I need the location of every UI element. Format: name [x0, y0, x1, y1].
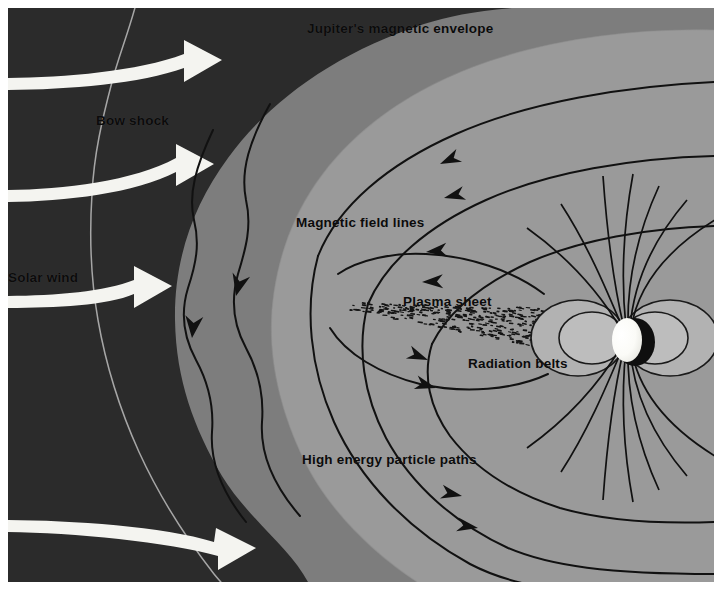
label-plasma-sheet: Plasma sheet: [403, 294, 492, 309]
plasma-sheet-particle: [464, 314, 467, 316]
plasma-sheet-particle: [462, 319, 465, 321]
plasma-sheet-particle: [349, 309, 352, 311]
plasma-sheet-particle: [438, 318, 441, 320]
plasma-sheet-particle: [459, 331, 462, 333]
label-jupiters-magnetic-envelope: Jupiter's magnetic envelope: [307, 21, 493, 36]
diagram-svg: [8, 8, 714, 582]
label-high-energy-particle-paths: High energy particle paths: [302, 452, 477, 467]
plasma-sheet-particle: [377, 311, 381, 313]
plasma-sheet-particle: [367, 311, 372, 313]
plasma-sheet-particle: [379, 306, 381, 308]
label-bow-shock: Bow shock: [96, 113, 169, 128]
label-magnetic-field-lines: Magnetic field lines: [296, 215, 425, 230]
plasma-sheet-particle: [420, 310, 423, 311]
magnetosphere-diagram: Jupiter's magnetic envelope Bow shock So…: [8, 8, 714, 582]
plasma-sheet-particle: [433, 312, 436, 314]
plasma-sheet-particle: [506, 320, 509, 322]
plasma-sheet-particle: [399, 309, 402, 311]
plasma-sheet-particle: [423, 309, 426, 311]
label-solar-wind: Solar wind: [8, 270, 78, 285]
plasma-sheet-particle: [433, 319, 436, 321]
plasma-sheet-particle: [497, 337, 499, 339]
plasma-sheet-particle: [473, 316, 476, 318]
jupiter-planet: [612, 318, 642, 362]
label-radiation-belts: Radiation belts: [468, 356, 568, 371]
figure-canvas: Jupiter's magnetic envelope Bow shock So…: [0, 0, 721, 591]
plasma-sheet-particle: [481, 332, 485, 334]
